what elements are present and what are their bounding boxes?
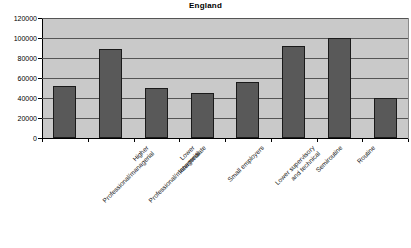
x-tick-mark [271,139,272,142]
y-tick-label: 100000 [0,35,37,42]
x-tick-mark [134,139,135,142]
bar [374,98,397,138]
bar [145,88,168,138]
x-tick-mark [408,139,409,142]
y-tick-label: 120000 [0,15,37,22]
x-tick-mark [88,139,89,142]
y-tick-label: 0 [0,135,37,142]
y-tick-label: 80000 [0,55,37,62]
y-tick-mark [38,98,42,99]
gridline [42,58,408,59]
y-tick-label: 60000 [0,75,37,82]
bar [191,93,214,138]
y-tick-label: 20000 [0,115,37,122]
x-tick-mark [362,139,363,142]
gridline [42,38,408,39]
x-tick-label: Routine [356,144,377,165]
x-tick-mark [225,139,226,142]
x-tick-mark [179,139,180,142]
x-tick-label-line: Routine [356,144,377,165]
gridline [42,118,408,119]
y-tick-mark [38,18,42,19]
chart-title: England [0,1,411,11]
gridline [42,18,408,19]
bar [328,38,351,138]
y-tick-label: 40000 [0,95,37,102]
bar [236,82,259,138]
x-tick-mark [317,139,318,142]
x-tick-label-line: Semiroutine [314,144,344,174]
bar [99,49,122,138]
y-tick-mark [38,38,42,39]
x-tick-label-line: Small employers [226,144,265,183]
plot-frame-right-border [408,18,409,139]
gridline [42,78,408,79]
chart-container: England 02000040000600008000010000012000… [0,0,411,248]
x-tick-mark [42,139,43,142]
x-tick-label: Small employers [226,144,265,183]
x-tick-label-line: Higher [95,144,150,199]
y-tick-mark [38,78,42,79]
bar [53,86,76,138]
y-tick-mark [38,58,42,59]
y-tick-mark [38,118,42,119]
gridline [42,98,408,99]
bar [282,46,305,139]
x-tick-label: Semiroutine [314,144,344,174]
